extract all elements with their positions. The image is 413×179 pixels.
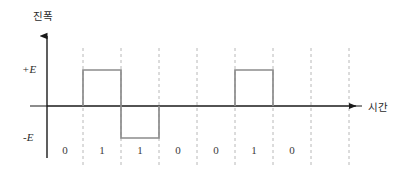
y-tick-label-negative-e: -E [23,131,33,143]
pulse-bit5-positive [235,70,273,106]
bit-label-2: 1 [137,144,143,156]
figure-canvas: 진폭 시간 +E -E 0 1 1 0 0 1 0 [0,0,413,179]
y-axis-label: 진폭 [33,8,53,23]
bit-label-3: 0 [175,144,181,156]
bit-label-4: 0 [213,144,219,156]
bit-label-6: 0 [289,144,295,156]
bit-label-0: 0 [62,144,68,156]
x-axis-label: 시간 [368,99,388,114]
waveform-trace [83,70,273,138]
pulse-bit2-negative [121,106,159,138]
y-tick-label-positive-e: +E [22,63,36,75]
pulse-bit1-positive [83,70,121,106]
bit-label-5: 1 [251,144,257,156]
bit-label-1: 1 [99,144,105,156]
